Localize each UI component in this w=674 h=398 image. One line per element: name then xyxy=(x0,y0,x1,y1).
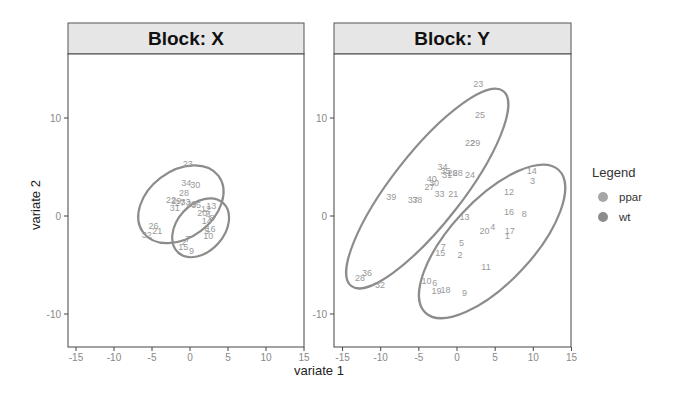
point-label: 23 xyxy=(473,79,483,89)
x-tick-label: 0 xyxy=(454,352,460,363)
x-tick-label: 0 xyxy=(187,352,193,363)
legend: Legend ppar wt xyxy=(592,165,642,223)
x-tick-label: 5 xyxy=(225,352,231,363)
point-label: 5 xyxy=(459,238,464,248)
point-label: 12 xyxy=(504,187,514,197)
point-label: 28 xyxy=(453,168,463,178)
point-label: 15 xyxy=(435,248,445,258)
point-label: 9 xyxy=(462,288,467,298)
point-label: 24 xyxy=(465,170,475,180)
legend-label-ppar[interactable]: ppar xyxy=(619,191,642,203)
y-axis-title: variate 2 xyxy=(28,180,43,230)
point-label: 3 xyxy=(530,176,535,186)
point-label: 2 xyxy=(458,250,463,260)
y-tick-label: 10 xyxy=(316,113,328,124)
point-label: 32 xyxy=(142,230,152,240)
point-label: 23 xyxy=(183,159,193,169)
x-tick-label: 5 xyxy=(492,352,498,363)
x-axis-block-x: -15-10-5051015 xyxy=(69,347,310,363)
x-tick-label: -15 xyxy=(69,352,84,363)
point-label: 28 xyxy=(355,273,365,283)
legend-swatch-ppar xyxy=(598,192,608,202)
y-tick-label: 0 xyxy=(55,211,61,222)
x-tick-label: 15 xyxy=(298,352,310,363)
point-label: 16 xyxy=(504,207,514,217)
point-label: 10 xyxy=(203,231,213,241)
point-label: 39 xyxy=(386,192,396,202)
legend-label-wt[interactable]: wt xyxy=(618,211,631,223)
point-label: 33 xyxy=(434,189,444,199)
point-label: 1 xyxy=(505,231,510,241)
point-label: 10 xyxy=(421,276,431,286)
point-label: 21 xyxy=(152,226,162,236)
point-label: 31 xyxy=(170,203,180,213)
legend-title: Legend xyxy=(592,165,635,180)
x-tick-label: 10 xyxy=(260,352,272,363)
x-tick-label: -10 xyxy=(107,352,122,363)
panel-block-y: Block: Y 2325222934352628312440302733213… xyxy=(323,23,588,347)
point-label: 4 xyxy=(490,222,495,232)
x-tick-label: -5 xyxy=(414,352,423,363)
y-tick-label: 10 xyxy=(50,113,62,124)
strip-label-block-x: Block: X xyxy=(148,28,224,49)
point-label: 31 xyxy=(442,170,452,180)
point-label: 25 xyxy=(475,110,485,120)
point-label: 9 xyxy=(189,246,194,256)
point-label: 19 xyxy=(431,286,441,296)
point-label: 15 xyxy=(178,242,188,252)
point-label: 38 xyxy=(412,195,422,205)
x-tick-label: -15 xyxy=(335,352,350,363)
point-label: 14 xyxy=(527,166,537,176)
y-tick-label: -10 xyxy=(313,309,328,320)
x-tick-label: 10 xyxy=(528,352,540,363)
point-label: 32 xyxy=(375,280,385,290)
point-label: 11 xyxy=(481,262,490,272)
strip-label-block-y: Block: Y xyxy=(414,28,490,49)
x-tick-label: -5 xyxy=(148,352,157,363)
x-axis-block-y: -15-10-5051015 xyxy=(335,347,577,363)
point-label: 27 xyxy=(425,182,435,192)
chart-canvas: Block: X 2334302822292733393531262132131… xyxy=(0,0,674,398)
panel-block-x: Block: X 2334302822292733393531262132131… xyxy=(68,23,304,347)
point-label: 30 xyxy=(190,180,200,190)
point-label: 13 xyxy=(460,212,470,222)
point-label: 20 xyxy=(479,226,489,236)
x-tick-label: 15 xyxy=(566,352,578,363)
plot-area-block-y xyxy=(334,54,571,347)
x-tick-label: -10 xyxy=(373,352,388,363)
point-label: 29 xyxy=(470,138,480,148)
point-label: 18 xyxy=(441,285,451,295)
y-tick-label: 0 xyxy=(321,211,327,222)
point-label: 21 xyxy=(448,189,458,199)
x-axis-title: variate 1 xyxy=(294,363,344,378)
y-tick-label: -10 xyxy=(47,309,62,320)
point-label: 8 xyxy=(522,209,527,219)
legend-swatch-wt xyxy=(598,212,608,222)
